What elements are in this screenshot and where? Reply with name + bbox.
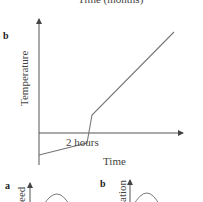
panel-label-b-bottom: b — [100, 178, 106, 189]
temperature-line — [39, 32, 174, 155]
panel-a-curve — [43, 194, 70, 202]
panel-label-a: a — [5, 180, 10, 191]
temperature-chart — [0, 0, 203, 202]
x-axis-label: Time — [103, 155, 126, 167]
two-hours-annotation: 2 hours — [66, 136, 99, 148]
panel-b-curve — [133, 193, 160, 202]
figure: Time (months) b Temperature 2 hours Time… — [0, 0, 203, 202]
panel-b-y-label: ation — [116, 180, 128, 202]
panel-a-y-label: eed — [15, 187, 27, 202]
